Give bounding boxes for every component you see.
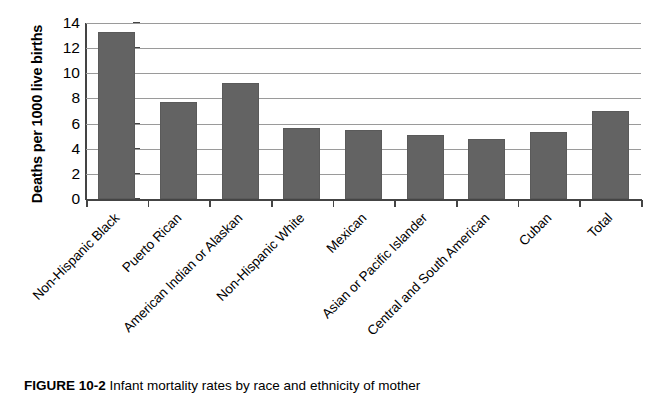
bar-series <box>86 23 641 199</box>
x-tick-mark <box>209 200 211 207</box>
bar <box>283 128 320 199</box>
bar <box>160 102 197 199</box>
x-tick-mark <box>333 200 335 207</box>
bar <box>592 111 629 199</box>
y-axis-tick-labels: 14121086420 <box>52 23 80 199</box>
y-axis-title: Deaths per 1000 live births <box>29 19 45 209</box>
bar <box>222 83 259 199</box>
y-tick-label: 4 <box>54 141 80 157</box>
y-tick-label: 6 <box>54 116 80 132</box>
x-tick-mark <box>518 200 520 207</box>
figure-number: FIGURE 10-2 <box>24 378 106 393</box>
x-tick-mark <box>394 200 396 207</box>
x-tick-mark <box>148 200 150 207</box>
x-tick-mark <box>579 200 581 207</box>
bar <box>345 130 382 199</box>
y-tick-label: 12 <box>54 40 80 56</box>
y-tick-label: 0 <box>54 191 80 207</box>
x-tick-mark <box>271 200 273 207</box>
bar <box>468 139 505 199</box>
y-tick-label: 8 <box>54 91 80 107</box>
x-axis-line <box>86 199 642 201</box>
caption-text: Infant mortality rates by race and ethni… <box>106 378 420 393</box>
x-tick-mark <box>86 200 88 207</box>
bar <box>98 32 135 199</box>
y-tick-label: 14 <box>54 15 80 31</box>
y-tick-label: 2 <box>54 166 80 182</box>
bar <box>407 135 444 199</box>
x-tick-mark <box>456 200 458 207</box>
x-tick-mark <box>641 200 643 207</box>
figure-caption: FIGURE 10-2 Infant mortality rates by ra… <box>24 378 644 394</box>
y-tick-label: 10 <box>54 66 80 82</box>
bar <box>530 132 567 199</box>
